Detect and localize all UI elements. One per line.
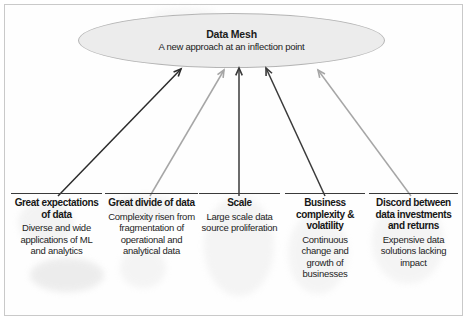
driver-column-business-complexity-and-volatility: Business complexity & volatilityContinuo… bbox=[285, 193, 365, 280]
column-rule bbox=[105, 193, 198, 194]
driver-column-great-divide-of-data: Great divide of dataComplexity risen fro… bbox=[105, 193, 198, 257]
data-mesh-ellipse: Data Mesh A new approach at an inflectio… bbox=[78, 13, 385, 68]
column-body: Diverse and wide applications of ML and … bbox=[11, 222, 102, 257]
data-mesh-subtitle: A new approach at an inflection point bbox=[158, 41, 304, 53]
column-heading: Great divide of data bbox=[105, 197, 198, 209]
column-heading: Scale bbox=[199, 197, 280, 209]
column-rule bbox=[199, 193, 280, 194]
column-rule bbox=[11, 193, 102, 194]
driver-column-scale: ScaleLarge scale data source proliferati… bbox=[199, 193, 280, 234]
column-heading: Discord between data investments and ret… bbox=[369, 197, 458, 232]
data-mesh-title: Data Mesh bbox=[206, 28, 257, 40]
diagram-canvas: Data Mesh A new approach at an inflectio… bbox=[0, 0, 469, 324]
column-body: Expensive data solutions lacking impact bbox=[369, 234, 458, 269]
column-body: Complexity risen from fragmentation of o… bbox=[105, 211, 198, 257]
driver-columns: Great expectations of dataDiverse and wi… bbox=[0, 193, 469, 324]
column-rule bbox=[285, 193, 365, 194]
column-body: Large scale data source proliferation bbox=[199, 211, 280, 234]
column-heading: Great expectations of data bbox=[11, 197, 102, 220]
column-body: Continuous change and growth of business… bbox=[285, 234, 365, 280]
column-heading: Business complexity & volatility bbox=[285, 197, 365, 232]
column-rule bbox=[369, 193, 458, 194]
driver-column-great-expectations-of-data: Great expectations of dataDiverse and wi… bbox=[11, 193, 102, 257]
driver-column-discord-between-data-investments-and-returns: Discord between data investments and ret… bbox=[369, 193, 458, 268]
